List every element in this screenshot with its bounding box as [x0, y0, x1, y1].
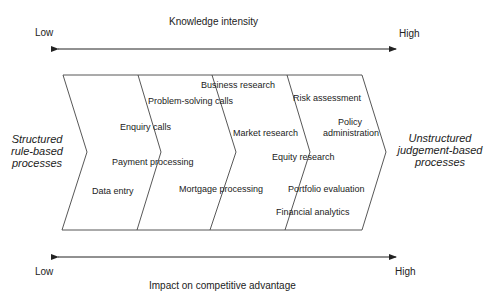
- knowledge-intensity-title: Knowledge intensity: [169, 16, 258, 27]
- process-business-research: Business research: [201, 80, 275, 90]
- knowledge-low-label: Low: [35, 27, 53, 38]
- process-financial-analytics: Financial analytics: [276, 207, 350, 217]
- structured-processes-label: Structured rule-based processes: [6, 133, 68, 169]
- process-market-research: Market research: [233, 128, 298, 138]
- left-label-line2: rule-based: [6, 145, 68, 157]
- impact-high-label: High: [395, 266, 416, 277]
- process-enquiry-calls: Enquiry calls: [120, 122, 171, 132]
- process-equity-research: Equity research: [272, 152, 335, 162]
- process-problem-solving-calls: Problem-solving calls: [148, 96, 233, 106]
- process-risk-assessment: Risk assessment: [293, 93, 361, 103]
- impact-title: Impact on competitive advantage: [149, 280, 296, 291]
- left-label-line1: Structured: [6, 133, 68, 145]
- process-administration: administration: [323, 128, 379, 138]
- knowledge-high-label: High: [399, 28, 420, 39]
- right-label-line1: Unstructured: [390, 132, 490, 144]
- right-label-line2: judgement-based: [390, 144, 490, 156]
- process-payment-processing: Payment processing: [112, 157, 194, 167]
- left-label-line3: processes: [6, 157, 68, 169]
- process-policy: Policy: [338, 117, 362, 127]
- impact-low-label: Low: [35, 266, 53, 277]
- right-label-line3: processes: [390, 156, 490, 168]
- process-portfolio-evaluation: Portfolio evaluation: [288, 184, 365, 194]
- unstructured-processes-label: Unstructured judgement-based processes: [390, 132, 490, 168]
- process-mortgage-processing: Mortgage processing: [179, 184, 263, 194]
- process-data-entry: Data entry: [92, 186, 134, 196]
